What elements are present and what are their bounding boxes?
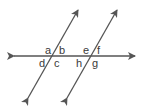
diagram-lines bbox=[0, 0, 146, 109]
angle-label-d: d bbox=[39, 58, 45, 69]
angle-label-g: g bbox=[92, 58, 98, 69]
angle-label-c: c bbox=[54, 58, 60, 69]
angle-label-h: h bbox=[76, 58, 82, 69]
right-parallel-line bbox=[67, 10, 117, 98]
parallel-lines-transversal-diagram: a b d c e f h g bbox=[0, 0, 146, 109]
angle-label-a: a bbox=[45, 45, 51, 56]
left-parallel-line bbox=[28, 10, 78, 98]
angle-label-b: b bbox=[59, 45, 65, 56]
angle-label-f: f bbox=[97, 45, 100, 56]
angle-label-e: e bbox=[83, 45, 89, 56]
